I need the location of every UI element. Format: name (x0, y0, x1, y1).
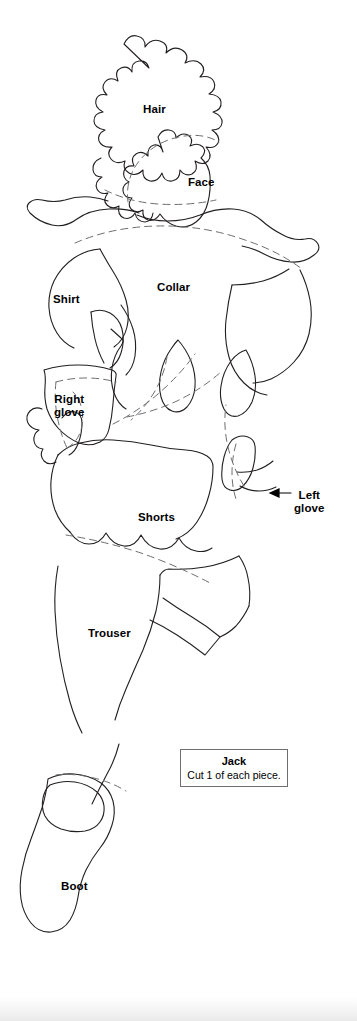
trouser-hip-right (239, 556, 250, 606)
shirt-fold-edge (91, 312, 104, 363)
right-glove-seam-top (56, 378, 116, 382)
collar-outline (27, 197, 139, 226)
shorts-hem-seam (66, 535, 212, 584)
shorts-left-edge (51, 455, 70, 532)
trouser-waist (160, 556, 239, 575)
face-collar-seam (105, 190, 216, 205)
trouser-right-flap (150, 598, 220, 655)
trouser-inner-edge (115, 575, 160, 720)
boot-outline (20, 774, 114, 932)
left-glove-leader (270, 489, 291, 497)
trouser-flap-edge (220, 606, 249, 637)
collar-shoulder-seam (75, 226, 302, 269)
right-glove-thumb (27, 408, 56, 464)
shirt-fold (91, 310, 123, 368)
label-collar: Collar (157, 281, 190, 294)
boot-top-seam (56, 774, 126, 791)
pattern-page: Hair Face Collar Shirt Right glove Left … (0, 0, 357, 1021)
legend-title: Jack (222, 754, 246, 768)
label-hair: Hair (143, 103, 166, 116)
leg-into-boot-right (92, 744, 119, 804)
label-shirt: Shirt (53, 293, 80, 306)
trouser-left-edge (55, 566, 82, 733)
boot-ankle (42, 781, 104, 831)
shorts-hem (70, 532, 212, 552)
left-glove-seam (232, 444, 237, 502)
left-glove-leader-arrowhead (270, 489, 279, 497)
sleeve-right-leaf (220, 350, 255, 416)
torso-right-side (225, 285, 267, 395)
label-face: Face (188, 176, 215, 189)
label-left-glove: Left glove (294, 489, 325, 515)
torso-right-contour (232, 269, 289, 285)
label-right-glove: Right glove (54, 393, 85, 419)
left-glove-outline (222, 436, 256, 491)
label-shorts: Shorts (138, 511, 175, 524)
legend-instruction: Cut 1 of each piece. (187, 768, 280, 782)
shirt-sleeve-seam (113, 354, 195, 424)
collar-body (137, 209, 319, 262)
hair-face-seam (128, 135, 220, 202)
label-trouser: Trouser (88, 627, 131, 640)
torso-right-outer (253, 270, 311, 383)
legend-box: Jack Cut 1 of each piece. (180, 749, 288, 787)
label-boot: Boot (61, 880, 88, 893)
shorts-outline (58, 440, 213, 539)
left-glove-tip (240, 486, 276, 491)
shorts-waist-seam (225, 405, 244, 486)
left-glove-cuff (237, 461, 273, 472)
